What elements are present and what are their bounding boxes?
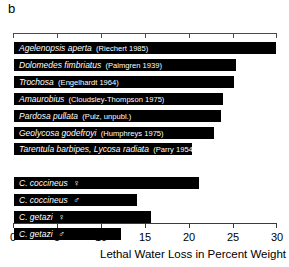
bar-label: Trochosa (Engelhardt 1964) — [19, 75, 119, 89]
axis-tick-labels: 051015202530 — [0, 231, 289, 245]
species-name: C. coccineus — [19, 195, 68, 205]
species-name: Geolycosa godefroyi — [19, 128, 97, 138]
bar-row: Pardosa pullata (Pulz, unpubl.) — [13, 109, 277, 123]
bottom-axis-tick — [57, 223, 58, 228]
citation: (Cloudsley-Thompson 1975) — [64, 95, 164, 104]
bar-label: Pardosa pullata (Pulz, unpubl.) — [19, 109, 131, 123]
axis-tick-label: 15 — [133, 231, 157, 243]
bar-row: Trochosa (Engelhardt 1964) — [13, 75, 277, 89]
species-name: Pardosa pullata — [19, 111, 78, 121]
bottom-axis — [13, 223, 277, 229]
axis-tick-label: 5 — [45, 231, 69, 243]
axis-tick-label: 30 — [265, 231, 289, 243]
sex-symbol: ♀ — [53, 212, 66, 222]
axis-tick-label: 0 — [1, 231, 25, 243]
bottom-axis-tick — [101, 223, 102, 228]
axis-tick-label: 10 — [89, 231, 113, 243]
bar-label: Geolycosa godefroyi (Humphreys 1975) — [19, 126, 164, 140]
bottom-axis-tick — [189, 223, 190, 228]
axis-tick-label: 25 — [221, 231, 245, 243]
plot-area: Agelenopsis aperta (Riechert 1985)Dolome… — [13, 33, 277, 223]
top-axis-tick — [145, 33, 146, 38]
bar-row: Agelenopsis aperta (Riechert 1985) — [13, 41, 277, 55]
figure-panel-b: b Agelenopsis aperta (Riechert 1985)Dolo… — [0, 0, 289, 267]
citation: (Palmgren 1939) — [101, 61, 162, 70]
bottom-axis-tick — [276, 223, 277, 228]
top-axis-tick — [233, 33, 234, 38]
citation: (Riechert 1985) — [92, 44, 149, 53]
bar-label: C. coccineus ♀ — [19, 176, 80, 190]
species-name: Agelenopsis aperta — [19, 43, 92, 53]
species-name: Tarentula barbipes, Lycosa radiata — [19, 144, 149, 154]
panel-letter: b — [8, 2, 15, 15]
citation: (Pulz, unpubl.) — [78, 112, 131, 121]
bottom-axis-tick — [233, 223, 234, 228]
species-name: C. coccineus — [19, 178, 68, 188]
bar-row: Tarentula barbipes, Lycosa radiata (Parr… — [13, 142, 277, 156]
top-axis-tick — [57, 33, 58, 38]
citation: (Parry 1954) — [149, 145, 195, 154]
top-axis-tick — [189, 33, 190, 38]
species-name: Amaurobius — [19, 94, 64, 104]
bar-row: C. getazi ♀ — [13, 210, 277, 224]
bar-label: Dolomedes fimbriatus (Palmgren 1939) — [19, 58, 162, 72]
bar-label: C. coccineus ♂ — [19, 193, 80, 207]
bar-row: C. coccineus ♂ — [13, 193, 277, 207]
top-axis — [13, 33, 277, 39]
sex-symbol: ♂ — [68, 195, 81, 205]
axis-title: Lethal Water Loss in Percent Weight — [0, 248, 286, 261]
citation: (Humphreys 1975) — [97, 129, 164, 138]
bar-row: Amaurobius (Cloudsley-Thompson 1975) — [13, 92, 277, 106]
bar-label: Tarentula barbipes, Lycosa radiata (Parr… — [19, 142, 195, 156]
bar-label: C. getazi ♀ — [19, 210, 65, 224]
species-name: C. getazi — [19, 212, 53, 222]
species-name: Dolomedes fimbriatus — [19, 60, 101, 70]
bar-row: C. coccineus ♀ — [13, 176, 277, 190]
bar-label: Amaurobius (Cloudsley-Thompson 1975) — [19, 92, 164, 106]
bottom-axis-tick — [13, 223, 14, 228]
top-axis-tick — [276, 33, 277, 38]
citation: (Engelhardt 1964) — [54, 78, 119, 87]
axis-tick-label: 20 — [177, 231, 201, 243]
bar-label: Agelenopsis aperta (Riechert 1985) — [19, 41, 148, 55]
bottom-axis-tick — [145, 223, 146, 228]
top-axis-tick — [101, 33, 102, 38]
sex-symbol: ♀ — [68, 178, 81, 188]
top-axis-tick — [13, 33, 14, 38]
bar-row: Geolycosa godefroyi (Humphreys 1975) — [13, 126, 277, 140]
bar-row: Dolomedes fimbriatus (Palmgren 1939) — [13, 58, 277, 72]
species-name: Trochosa — [19, 77, 54, 87]
